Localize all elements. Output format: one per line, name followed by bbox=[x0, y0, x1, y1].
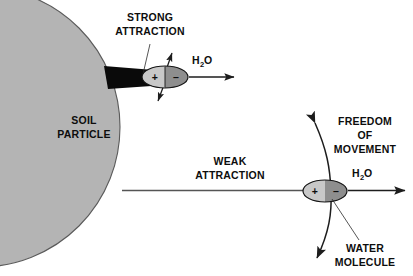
free-h2o-formula-main: H bbox=[352, 167, 360, 179]
strong-attraction-label-line1: STRONG bbox=[127, 11, 173, 23]
adsorbed-water-molecule: + – H 2 O bbox=[142, 53, 234, 101]
adsorbed-molecule-negative-sign: – bbox=[173, 71, 179, 83]
freedom-label-line1: FREEDOM bbox=[338, 115, 392, 127]
weak-attraction-group: WEAK ATTRACTION bbox=[122, 155, 303, 191]
soil-particle-label-line1: SOIL bbox=[71, 114, 97, 126]
water-molecule-label-line1: WATER bbox=[346, 242, 384, 254]
free-water-molecule: + – H 2 O bbox=[303, 167, 405, 202]
free-molecule-negative-sign: – bbox=[333, 185, 339, 197]
soil-particle: SOIL PARTICLE bbox=[0, 0, 120, 267]
water-molecule-label-line2: MOLECULE bbox=[335, 256, 396, 268]
soil-particle-label-line2: PARTICLE bbox=[57, 128, 110, 140]
diagram-canvas: SOIL PARTICLE STRONG ATTRACTION + – bbox=[0, 0, 413, 276]
adsorbed-h2o-formula-tail: O bbox=[204, 54, 212, 66]
weak-attraction-label-line2: ATTRACTION bbox=[195, 169, 264, 181]
adsorbed-h2o-formula-main: H bbox=[192, 54, 200, 66]
water-molecule-leader-line bbox=[332, 199, 359, 240]
adsorbed-molecule-positive-sign: + bbox=[152, 71, 158, 83]
strong-attraction-label-line2: ATTRACTION bbox=[115, 25, 184, 37]
soil-water-attraction-diagram: SOIL PARTICLE STRONG ATTRACTION + – bbox=[0, 0, 413, 276]
water-molecule-label-group: WATER MOLECULE bbox=[332, 199, 395, 268]
free-h2o-formula-tail: O bbox=[364, 167, 372, 179]
weak-attraction-label-line1: WEAK bbox=[214, 155, 247, 167]
freedom-label-line3: MOVEMENT bbox=[334, 143, 397, 155]
freedom-label-line2: OF bbox=[358, 129, 373, 141]
free-molecule-positive-sign: + bbox=[312, 185, 318, 197]
